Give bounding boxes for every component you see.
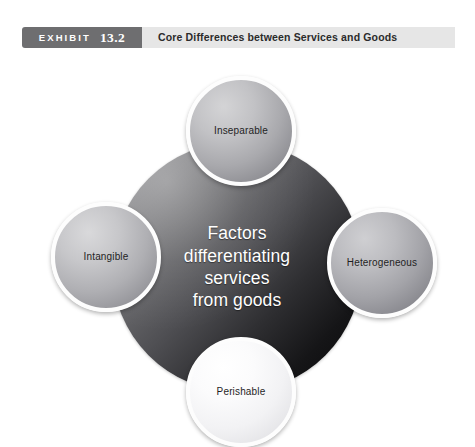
- node-heterogeneous-label: Heterogeneous: [347, 258, 417, 268]
- node-inseparable: Inseparable: [186, 76, 296, 186]
- hub-label-line-1: Factors: [207, 222, 266, 244]
- node-heterogeneous: Heterogeneous: [327, 208, 437, 318]
- node-perishable: Perishable: [186, 337, 296, 447]
- node-inseparable-label: Inseparable: [214, 126, 268, 136]
- hub-label-line-4: from goods: [193, 289, 282, 311]
- exhibit-badge: EXHIBIT 13.2: [22, 27, 142, 48]
- exhibit-title: Core Differences between Services and Go…: [158, 32, 397, 43]
- node-intangible: Intangible: [51, 202, 161, 312]
- hub-label-line-2: differentiating: [184, 245, 290, 267]
- exhibit-badge-number: 13.2: [100, 31, 125, 45]
- hub-label-line-3: services: [205, 267, 270, 289]
- node-perishable-label: Perishable: [217, 387, 266, 397]
- exhibit-header: EXHIBIT 13.2 Core Differences between Se…: [22, 27, 455, 48]
- node-intangible-label: Intangible: [84, 252, 129, 262]
- exhibit-title-bar: Core Differences between Services and Go…: [142, 27, 455, 48]
- hub-and-spoke-diagram: Factors differentiating services from go…: [0, 62, 475, 440]
- exhibit-badge-word: EXHIBIT: [39, 33, 91, 43]
